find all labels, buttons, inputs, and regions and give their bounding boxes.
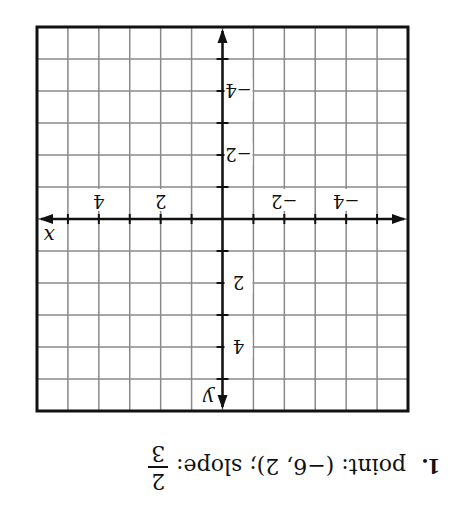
axes xyxy=(39,29,406,409)
x-tick-label: −2 xyxy=(271,191,298,212)
tick-labels: −4−22442−2−4xy xyxy=(43,79,359,410)
y-tick-label: −2 xyxy=(225,144,252,165)
y-axis-arrow-down-icon xyxy=(218,29,228,43)
x-axis-label: x xyxy=(43,224,54,248)
x-tick-label: −4 xyxy=(333,191,360,212)
rotated-page: 1. point: (−6, 2); slope: 2 3 −4−22442−2… xyxy=(0,0,460,507)
y-tick-label: −4 xyxy=(225,80,252,101)
x-tick-label: 4 xyxy=(93,191,104,212)
x-axis-arrow-right-icon xyxy=(39,214,53,224)
x-axis-arrow-left-icon xyxy=(392,214,406,224)
y-axis-label: y xyxy=(202,386,215,410)
y-tick-label: 2 xyxy=(233,272,244,293)
coordinate-grid: −4−22442−2−4xy xyxy=(0,0,460,507)
x-tick-label: 2 xyxy=(155,191,166,212)
y-tick-label: 4 xyxy=(233,336,244,357)
y-axis-arrow-up-icon xyxy=(218,395,228,409)
